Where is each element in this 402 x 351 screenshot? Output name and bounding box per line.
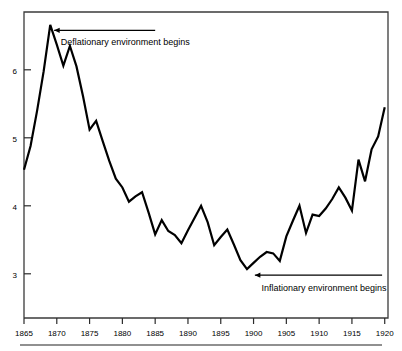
x-tick-label: 1920 <box>376 329 394 338</box>
y-tick-label: 6 <box>13 67 18 76</box>
chart-figure: 1865187018751880188518901895190019051910… <box>0 0 402 351</box>
x-tick-label: 1870 <box>48 329 66 338</box>
y-tick-label: 5 <box>13 135 18 144</box>
line-chart: 1865187018751880188518901895190019051910… <box>0 0 402 351</box>
x-tick-label: 1905 <box>277 329 295 338</box>
annotation-text: Deflationary environment begins <box>61 37 191 47</box>
annotation-text: Inflationary environment begins <box>261 283 387 293</box>
x-tick-label: 1875 <box>81 329 99 338</box>
x-tick-label: 1915 <box>343 329 361 338</box>
x-tick-label: 1865 <box>15 329 33 338</box>
x-tick-label: 1880 <box>113 329 131 338</box>
x-tick-label: 1890 <box>179 329 197 338</box>
y-tick-label: 3 <box>13 271 18 280</box>
x-tick-label: 1910 <box>310 329 328 338</box>
x-tick-label: 1895 <box>212 329 230 338</box>
x-tick-label: 1885 <box>146 329 164 338</box>
x-tick-label: 1900 <box>245 329 263 338</box>
annotation-inflationary: Inflationary environment begins <box>255 273 387 294</box>
y-tick-label: 4 <box>13 203 18 212</box>
